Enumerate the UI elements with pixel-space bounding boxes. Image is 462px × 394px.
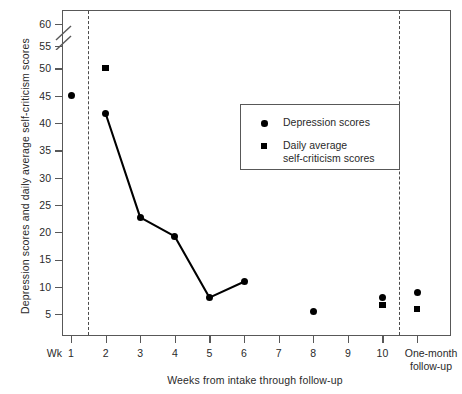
y-tick-mark-35 <box>55 150 62 151</box>
plot-frame-left <box>62 10 63 336</box>
y-tick-label-50: 50 <box>14 62 51 74</box>
x-tick-label-1: 1 <box>56 347 86 359</box>
x-tick-mark-4 <box>175 336 176 343</box>
x-tick-label-followup: One-month follow-up <box>401 347 461 372</box>
y-tick-label-60: 60 <box>14 18 51 30</box>
x-tick-label-followup-line1: One-month <box>401 347 461 360</box>
y-tick-label-40: 40 <box>14 117 51 129</box>
x-tick-label-followup-line2: follow-up <box>401 360 461 373</box>
x-tick-label-3: 3 <box>125 347 155 359</box>
y-tick-label-45: 45 <box>14 90 51 102</box>
data-point-depression-wk8 <box>310 308 317 315</box>
data-point-selfcriticism-wk2 <box>102 65 108 71</box>
chart-figure: Depression scores and daily average self… <box>0 0 462 394</box>
y-tick-label-30: 30 <box>14 172 51 184</box>
y-tick-label-15: 15 <box>14 253 51 265</box>
x-tick-mark-9 <box>348 336 349 343</box>
y-tick-mark-50 <box>55 68 62 69</box>
y-tick-label-5: 5 <box>14 308 51 320</box>
x-tick-mark-7 <box>279 336 280 343</box>
y-tick-label-10: 10 <box>14 281 51 293</box>
chart-legend: Depression scores Daily average self-cri… <box>240 104 400 170</box>
x-tick-label-6: 6 <box>229 347 259 359</box>
y-axis-break-icon <box>53 24 75 50</box>
plot-frame-bottom <box>62 335 451 336</box>
x-tick-label-5: 5 <box>194 347 224 359</box>
phase-separator-line-intake <box>88 11 89 335</box>
x-tick-label-7: 7 <box>264 347 294 359</box>
y-tick-label-25: 25 <box>14 199 51 211</box>
data-point-depression-wk5 <box>206 294 213 301</box>
phase-separator-line-followup <box>399 11 400 335</box>
y-tick-mark-40 <box>55 123 62 124</box>
y-tick-mark-20 <box>55 232 62 233</box>
data-point-depression-wk1 <box>68 92 75 99</box>
x-tick-mark-6 <box>244 336 245 343</box>
legend-label-selfcriticism: Daily average self-criticism scores <box>283 139 375 164</box>
data-point-depression-wk6 <box>241 278 248 285</box>
x-tick-label-2: 2 <box>91 347 121 359</box>
legend-label-depression: Depression scores <box>283 116 370 129</box>
data-point-selfcriticism-followup <box>414 306 420 312</box>
x-tick-mark-3 <box>140 336 141 343</box>
y-tick-mark-25 <box>55 205 62 206</box>
data-point-depression-followup <box>414 289 421 296</box>
plot-frame-top <box>62 10 451 11</box>
y-tick-mark-15 <box>55 260 62 261</box>
y-tick-label-20: 20 <box>14 226 51 238</box>
data-point-depression-wk4 <box>171 233 178 240</box>
x-tick-label-4: 4 <box>160 347 190 359</box>
y-tick-mark-10 <box>55 287 62 288</box>
x-tick-mark-2 <box>106 336 107 343</box>
legend-label-selfcriticism-line2: self-criticism scores <box>283 152 375 165</box>
data-point-depression-wk3 <box>137 214 144 221</box>
data-point-depression-wk2 <box>102 110 109 117</box>
legend-marker-selfcriticism-icon <box>261 143 267 149</box>
plot-frame-right <box>450 10 451 336</box>
x-tick-mark-1 <box>71 336 72 343</box>
legend-marker-depression-icon <box>261 120 268 127</box>
y-tick-mark-5 <box>55 314 62 315</box>
x-tick-mark-5 <box>209 336 210 343</box>
x-tick-mark-10 <box>382 336 383 343</box>
x-tick-label-9: 9 <box>333 347 363 359</box>
x-tick-mark-8 <box>313 336 314 343</box>
y-tick-mark-45 <box>55 96 62 97</box>
x-tick-mark-followup <box>417 336 418 343</box>
x-tick-label-10: 10 <box>367 347 397 359</box>
y-tick-mark-30 <box>55 178 62 179</box>
y-tick-label-35: 35 <box>14 144 51 156</box>
legend-label-selfcriticism-line1: Daily average <box>283 139 375 152</box>
y-tick-label-55: 55 <box>14 40 51 52</box>
data-point-depression-wk10 <box>379 294 386 301</box>
x-axis-title: Weeks from intake through follow-up <box>60 374 450 386</box>
x-tick-label-8: 8 <box>298 347 328 359</box>
data-point-selfcriticism-wk10 <box>379 302 385 308</box>
